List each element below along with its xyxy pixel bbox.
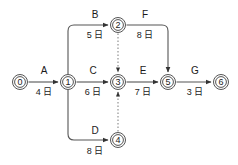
node-3: 3	[111, 75, 126, 90]
activity-label-C: C	[89, 65, 96, 76]
activity-duration-A: 4 日	[36, 87, 53, 97]
activity-duration-D: 8 日	[87, 146, 104, 156]
activity-edge-D: D 8 日	[68, 90, 108, 157]
activity-edge-E: E 7 日	[127, 65, 159, 97]
activity-duration-C: 6 日	[85, 87, 102, 97]
node-4-label: 4	[115, 135, 120, 145]
activity-duration-G: 3 日	[187, 87, 204, 97]
activity-label-A: A	[41, 65, 48, 76]
activity-edge-C: C 6 日	[77, 65, 109, 97]
activity-edge-A: A 4 日	[29, 65, 59, 97]
activity-edge-F: F 8 日	[127, 9, 169, 72]
node-5: 5	[161, 75, 176, 90]
activity-edge-G: G 3 日	[177, 65, 212, 97]
activity-label-F: F	[142, 9, 148, 20]
node-2: 2	[111, 18, 126, 33]
activity-label-G: G	[191, 65, 199, 76]
activity-duration-B: 5 日	[87, 30, 104, 40]
node-4: 4	[111, 133, 126, 148]
node-3-label: 3	[115, 77, 120, 87]
activity-duration-E: 7 日	[135, 87, 152, 97]
node-6: 6	[214, 75, 229, 90]
activity-duration-F: 8 日	[137, 30, 154, 40]
activity-label-E: E	[140, 65, 147, 76]
edge-line-D	[68, 90, 108, 141]
node-1: 1	[61, 75, 76, 90]
activity-edge-B: B 5 日	[68, 9, 108, 75]
network-diagram-canvas: A 4 日 B 5 日 C 6 日 D 8 日 E 7 日	[0, 0, 238, 165]
node-0: 0	[13, 75, 28, 90]
node-5-label: 5	[165, 77, 170, 87]
activity-label-D: D	[91, 125, 98, 136]
node-0-label: 0	[17, 77, 22, 87]
activity-label-B: B	[92, 9, 99, 20]
node-2-label: 2	[115, 20, 120, 30]
node-6-label: 6	[218, 77, 223, 87]
network-diagram: A 4 日 B 5 日 C 6 日 D 8 日 E 7 日	[0, 0, 238, 165]
node-1-label: 1	[65, 77, 70, 87]
